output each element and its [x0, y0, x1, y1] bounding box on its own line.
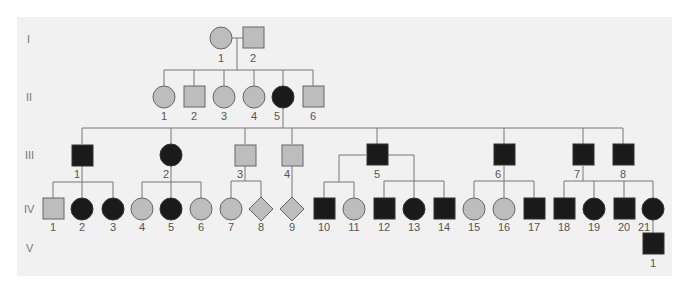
id-label: 12 — [378, 221, 390, 233]
generation-label-II: II — [26, 91, 32, 103]
individual-III-4[interactable] — [282, 145, 303, 166]
individual-IV-6[interactable] — [190, 198, 212, 220]
individual-IV-19[interactable] — [583, 198, 605, 220]
generation-label-V: V — [26, 242, 34, 254]
id-label: 3 — [237, 168, 243, 180]
generation-II: 1 2 3 4 5 6 — [153, 86, 324, 122]
id-label: 4 — [251, 110, 257, 122]
id-label: 14 — [438, 221, 450, 233]
individual-IV-10[interactable] — [314, 198, 335, 219]
individual-II-3[interactable] — [213, 86, 235, 108]
id-label: 17 — [528, 221, 540, 233]
id-label: 2 — [191, 110, 197, 122]
generation-label-IV: IV — [24, 203, 35, 215]
id-label: 1 — [74, 168, 80, 180]
id-label: 4 — [284, 168, 290, 180]
id-label: 1 — [218, 52, 224, 64]
id-label: 21 — [638, 221, 650, 233]
individual-III-8[interactable] — [613, 144, 634, 165]
generation-IV: 1 2 3 4 5 6 7 8 9 10 11 12 13 14 15 16 1… — [43, 197, 664, 233]
id-label: 5 — [274, 110, 280, 122]
individual-IV-20[interactable] — [614, 198, 635, 219]
id-label: 16 — [498, 221, 510, 233]
pedigree-chart: I II III IV V — [0, 0, 688, 285]
individual-III-6[interactable] — [494, 144, 515, 165]
id-label: 5 — [374, 168, 380, 180]
id-label: 1 — [50, 221, 56, 233]
individual-IV-21[interactable] — [642, 198, 664, 220]
individual-IV-11[interactable] — [343, 198, 365, 220]
id-label: 1 — [161, 110, 167, 122]
individual-II-1[interactable] — [153, 86, 175, 108]
id-label: 8 — [620, 168, 626, 180]
individual-IV-5[interactable] — [160, 198, 182, 220]
individual-IV-16[interactable] — [493, 198, 515, 220]
id-label: 2 — [250, 52, 256, 64]
individual-III-2[interactable] — [160, 144, 182, 166]
id-label: 3 — [110, 221, 116, 233]
generation-labels: I II III IV V — [24, 33, 35, 254]
individual-IV-8[interactable] — [249, 197, 273, 221]
id-label: 10 — [318, 221, 330, 233]
individual-II-2[interactable] — [184, 86, 205, 107]
id-label: 2 — [163, 168, 169, 180]
individual-V-1[interactable] — [643, 233, 664, 254]
individual-IV-17[interactable] — [524, 198, 545, 219]
individual-IV-14[interactable] — [434, 198, 455, 219]
individual-II-4[interactable] — [243, 86, 265, 108]
id-label: 7 — [228, 221, 234, 233]
generation-label-I: I — [27, 33, 30, 45]
individual-IV-18[interactable] — [554, 198, 575, 219]
id-label: 13 — [408, 221, 420, 233]
individual-IV-7[interactable] — [220, 198, 242, 220]
individual-IV-3[interactable] — [102, 198, 124, 220]
generation-label-III: III — [25, 149, 34, 161]
individual-II-5[interactable] — [272, 86, 294, 108]
id-label: 7 — [574, 168, 580, 180]
id-label: 19 — [588, 221, 600, 233]
id-label: 4 — [139, 221, 145, 233]
individual-III-1[interactable] — [72, 145, 93, 166]
individual-IV-2[interactable] — [71, 198, 93, 220]
id-label: 11 — [348, 221, 359, 233]
generation-III: 1 2 3 4 5 6 7 8 — [72, 144, 634, 180]
individual-III-5[interactable] — [367, 144, 388, 165]
id-label: 15 — [468, 221, 480, 233]
individual-I-1[interactable] — [210, 27, 232, 49]
id-label: 3 — [221, 110, 227, 122]
individual-III-7[interactable] — [573, 144, 594, 165]
individual-IV-4[interactable] — [131, 198, 153, 220]
id-label: 2 — [79, 221, 85, 233]
individual-I-2[interactable] — [243, 27, 264, 48]
individual-IV-15[interactable] — [463, 198, 485, 220]
id-label: 6 — [495, 168, 501, 180]
individual-IV-12[interactable] — [374, 198, 395, 219]
individual-III-3[interactable] — [235, 145, 256, 166]
individual-IV-13[interactable] — [403, 198, 425, 220]
id-label: 6 — [310, 110, 316, 122]
id-label: 9 — [289, 221, 295, 233]
individual-IV-1[interactable] — [43, 198, 64, 219]
generation-V: 1 — [643, 233, 664, 269]
id-label: 20 — [618, 221, 630, 233]
id-label: 18 — [558, 221, 570, 233]
id-label: 5 — [168, 221, 174, 233]
id-label: 1 — [650, 257, 656, 269]
id-label: 6 — [198, 221, 204, 233]
individual-IV-9[interactable] — [280, 197, 304, 221]
individual-II-6[interactable] — [303, 86, 324, 107]
id-label: 8 — [258, 221, 264, 233]
